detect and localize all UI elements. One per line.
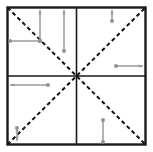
- arrow-q2-horizontal-tail-square: [38, 39, 41, 42]
- arrow-q2-horizontal-end-square: [8, 39, 11, 42]
- diagram-canvas: [0, 0, 153, 152]
- arrow-q4-vertical-end-square: [101, 140, 104, 143]
- arrow-q1-horizontal-right-tail-square: [114, 64, 117, 67]
- arrow-q2-vertical-outer-tail-square: [62, 49, 65, 52]
- arrow-q4-vertical-tail-square: [101, 118, 104, 121]
- arrow-q1-vertical-short-tail-square: [110, 19, 113, 22]
- diagram-root: [0, 0, 153, 152]
- arrow-q3-horizontal-left-tail-square: [46, 83, 49, 86]
